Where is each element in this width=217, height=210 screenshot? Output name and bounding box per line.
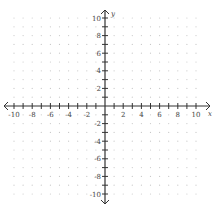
grid-dot — [50, 88, 51, 89]
grid-dot — [50, 17, 51, 18]
grid-dot — [59, 88, 60, 89]
x-tick-label: 2 — [121, 111, 125, 119]
grid-dot — [59, 149, 60, 150]
grid-dot — [123, 193, 124, 194]
grid-dot — [13, 61, 14, 62]
grid-dot — [13, 185, 14, 186]
grid-dot — [50, 176, 51, 177]
grid-dot — [59, 123, 60, 124]
grid-dot — [59, 79, 60, 80]
y-tick-label: 6 — [97, 50, 102, 58]
grid-dot — [132, 141, 133, 142]
grid-dot — [114, 167, 115, 168]
grid-dot — [195, 141, 196, 142]
grid-dot — [141, 26, 142, 27]
grid-dot — [186, 158, 187, 159]
grid-dot — [168, 149, 169, 150]
grid-dot — [32, 88, 33, 89]
grid-dot — [86, 44, 87, 45]
grid-dot — [77, 79, 78, 80]
grid-dot — [132, 35, 133, 36]
grid-dot — [41, 35, 42, 36]
grid-dot — [186, 44, 187, 45]
x-tick-label: 6 — [157, 111, 162, 119]
grid-dot — [41, 167, 42, 168]
x-tick-label: -2 — [83, 111, 90, 119]
grid-dot — [114, 61, 115, 62]
grid-dot — [32, 17, 33, 18]
grid-dot — [68, 88, 69, 89]
y-tick-label: 4 — [97, 67, 102, 75]
grid-dot — [168, 35, 169, 36]
grid-dot — [150, 149, 151, 150]
grid-dot — [50, 70, 51, 71]
grid-dot — [77, 167, 78, 168]
grid-dot — [50, 167, 51, 168]
grid-dot — [32, 70, 33, 71]
grid-dot — [186, 114, 187, 115]
grid-dot — [32, 193, 33, 194]
grid-dot — [50, 141, 51, 142]
grid-dot — [195, 176, 196, 177]
y-tick-label: 10 — [92, 15, 101, 23]
grid-dot — [168, 193, 169, 194]
grid-dot — [23, 141, 24, 142]
grid-dot — [168, 176, 169, 177]
grid-dot — [41, 141, 42, 142]
grid-dot — [23, 88, 24, 89]
grid-dot — [132, 61, 133, 62]
grid-dot — [141, 149, 142, 150]
grid-dot — [195, 167, 196, 168]
axes — [4, 10, 210, 204]
grid-dot — [177, 44, 178, 45]
grid-dot — [23, 149, 24, 150]
grid-dot — [132, 97, 133, 98]
grid-dot — [195, 35, 196, 36]
grid-dot — [32, 26, 33, 27]
grid-dot — [141, 70, 142, 71]
x-tick-label: -10 — [8, 111, 19, 119]
x-tick-label: 8 — [176, 111, 180, 119]
grid-dot — [132, 79, 133, 80]
grid-dot — [77, 70, 78, 71]
grid-dot — [150, 123, 151, 124]
grid-dot — [77, 176, 78, 177]
grid-dot — [141, 132, 142, 133]
grid-dot — [86, 176, 87, 177]
grid-dot — [123, 123, 124, 124]
grid-dot — [150, 193, 151, 194]
grid-dot — [150, 79, 151, 80]
grid-dot — [177, 158, 178, 159]
grid-dot — [77, 35, 78, 36]
grid-dot — [123, 132, 124, 133]
grid-dot — [168, 44, 169, 45]
grid-dot — [68, 53, 69, 54]
grid-dot — [32, 185, 33, 186]
grid-dot — [159, 26, 160, 27]
grid-dot — [186, 141, 187, 142]
grid-dot — [159, 61, 160, 62]
grid-dot — [159, 193, 160, 194]
grid-dot — [159, 158, 160, 159]
grid-dot — [95, 132, 96, 133]
grid-dot — [150, 141, 151, 142]
grid-dot — [186, 35, 187, 36]
grid-dot — [95, 61, 96, 62]
grid-dot — [141, 79, 142, 80]
grid-dot — [68, 35, 69, 36]
grid-dot — [41, 26, 42, 27]
grid-dot — [195, 97, 196, 98]
grid-dot — [59, 114, 60, 115]
grid-dot — [132, 185, 133, 186]
grid-dot — [41, 88, 42, 89]
grid-dot — [59, 17, 60, 18]
grid-dot — [123, 167, 124, 168]
grid-dot — [141, 53, 142, 54]
grid-dot — [186, 176, 187, 177]
y-tick-label: -6 — [94, 155, 101, 163]
grid-dot — [123, 35, 124, 36]
grid-dot — [186, 79, 187, 80]
grid-dot — [23, 53, 24, 54]
grid-dot — [13, 193, 14, 194]
grid-dot — [68, 141, 69, 142]
